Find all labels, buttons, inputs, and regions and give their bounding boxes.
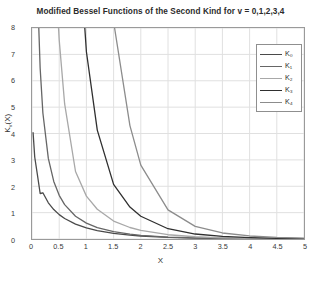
x-tick-label: 2.5 <box>153 242 183 251</box>
legend-item[interactable]: K₂ <box>259 72 299 84</box>
legend-item[interactable]: K₀ <box>259 48 299 60</box>
page-title: Modified Bessel Functions of the Second … <box>0 7 321 16</box>
legend-line-icon <box>260 90 282 91</box>
figure-container: Modified Bessel Functions of the Second … <box>0 0 321 284</box>
x-tick-label: 2 <box>126 242 156 251</box>
legend-line-icon <box>260 78 282 79</box>
y-tick-label: 8 <box>0 23 15 32</box>
legend-line-icon <box>260 102 282 103</box>
x-tick-label: 3 <box>180 242 210 251</box>
legend[interactable]: K₀K₁K₂K₃K₄ <box>256 44 302 112</box>
x-tick-label: 1 <box>71 242 101 251</box>
series-line-k0 <box>33 133 304 239</box>
x-tick-label: 0.5 <box>43 242 73 251</box>
x-tick-label: 1.5 <box>98 242 128 251</box>
x-tick-label: 4 <box>235 242 265 251</box>
y-tick-label: 3 <box>0 156 15 165</box>
y-tick-label: 6 <box>0 76 15 85</box>
legend-item[interactable]: K₁ <box>259 60 299 72</box>
legend-item[interactable]: K₄ <box>259 96 299 108</box>
x-tick-label: 5 <box>290 242 320 251</box>
legend-line-icon <box>260 54 282 55</box>
legend-label: K₃ <box>285 86 293 93</box>
legend-line-icon <box>260 66 282 67</box>
y-tick-label: 1 <box>0 209 15 218</box>
legend-label: K₁ <box>285 62 292 69</box>
x-tick-label: 0 <box>16 242 46 251</box>
legend-label: K₄ <box>285 98 293 105</box>
y-axis-label: Kv(X) <box>3 93 14 153</box>
y-tick-label: 2 <box>0 182 15 191</box>
legend-label: K₂ <box>285 74 293 81</box>
x-tick-label: 3.5 <box>208 242 238 251</box>
y-tick-label: 7 <box>0 49 15 58</box>
legend-label: K₀ <box>285 50 293 57</box>
x-tick-label: 4.5 <box>263 242 293 251</box>
y-tick-label: 0 <box>0 236 15 245</box>
legend-item[interactable]: K₃ <box>259 84 299 96</box>
x-axis-label: X <box>0 256 321 265</box>
